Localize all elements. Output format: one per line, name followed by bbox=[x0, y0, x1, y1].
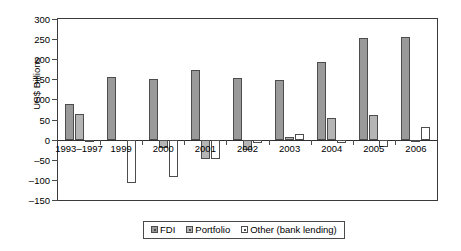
y-tick-mark bbox=[52, 180, 58, 181]
bar-group bbox=[359, 19, 388, 200]
y-tick-mark bbox=[52, 200, 58, 201]
y-tick-mark bbox=[52, 160, 58, 161]
y-tick-mark bbox=[52, 59, 58, 60]
legend-swatch-icon bbox=[151, 226, 158, 233]
bar-fdi bbox=[107, 77, 116, 140]
bar-portfolio bbox=[327, 118, 336, 140]
y-tick-mark bbox=[52, 99, 58, 100]
plot-area: 300250200150100500–50–100–150 bbox=[57, 18, 438, 201]
bar-fdi bbox=[359, 38, 368, 139]
y-tick-label: 50 bbox=[39, 114, 50, 125]
legend-swatch-icon bbox=[241, 226, 248, 233]
x-tick-mark bbox=[184, 140, 185, 145]
bar-fdi bbox=[317, 62, 326, 140]
y-tick-mark bbox=[52, 79, 58, 80]
bar-group bbox=[275, 19, 304, 200]
bar-group bbox=[149, 19, 178, 200]
chart-legend: FDIPortfolioOther (bank lending) bbox=[143, 221, 345, 239]
chart-figure: US$ Billions 300250200150100500–50–100–1… bbox=[0, 0, 461, 251]
bar-fdi bbox=[401, 37, 410, 140]
legend-label: Portfolio bbox=[195, 224, 230, 235]
bar-portfolio bbox=[75, 114, 84, 140]
y-tick-label: 0 bbox=[45, 134, 50, 145]
x-tick-label: 2004 bbox=[321, 143, 342, 154]
x-tick-mark bbox=[269, 140, 270, 145]
legend-label: Other (bank lending) bbox=[250, 224, 337, 235]
bar-fdi bbox=[275, 80, 284, 140]
bar-fdi bbox=[233, 78, 242, 140]
bar-other-bank-lending bbox=[295, 134, 304, 139]
y-tick-mark bbox=[52, 120, 58, 121]
bar-other-bank-lending bbox=[85, 140, 94, 142]
legend-item: FDI bbox=[151, 224, 175, 235]
x-tick-label: 2005 bbox=[363, 143, 384, 154]
bar-fdi bbox=[149, 79, 158, 139]
y-tick-mark bbox=[52, 39, 58, 40]
bar-group bbox=[65, 19, 94, 200]
y-tick-label: –150 bbox=[29, 195, 50, 206]
x-tick-label: 2001 bbox=[195, 143, 216, 154]
x-tick-label: 1993–1997 bbox=[55, 143, 103, 154]
x-tick-label: 2003 bbox=[279, 143, 300, 154]
y-tick-label: 150 bbox=[34, 74, 50, 85]
bar-other-bank-lending bbox=[421, 127, 430, 140]
x-tick-mark bbox=[395, 140, 396, 145]
y-tick-label: 250 bbox=[34, 34, 50, 45]
x-tick-label: 1999 bbox=[111, 143, 132, 154]
bar-portfolio bbox=[369, 115, 378, 140]
y-tick-label: 300 bbox=[34, 14, 50, 25]
bar-fdi bbox=[65, 104, 74, 139]
x-tick-mark bbox=[353, 140, 354, 145]
x-tick-mark bbox=[226, 140, 227, 145]
legend-item: Other (bank lending) bbox=[241, 224, 337, 235]
y-tick-mark bbox=[52, 19, 58, 20]
legend-label: FDI bbox=[160, 224, 175, 235]
bar-portfolio bbox=[285, 137, 294, 140]
x-tick-label: 2006 bbox=[405, 143, 426, 154]
y-tick-label: –100 bbox=[29, 174, 50, 185]
x-tick-mark bbox=[311, 140, 312, 145]
legend-item: Portfolio bbox=[186, 224, 230, 235]
bar-group bbox=[401, 19, 430, 200]
bar-group bbox=[233, 19, 262, 200]
bar-group bbox=[107, 19, 136, 200]
y-tick-label: –50 bbox=[34, 154, 50, 165]
y-tick-label: 100 bbox=[34, 94, 50, 105]
legend-swatch-icon bbox=[186, 226, 193, 233]
bar-fdi bbox=[191, 70, 200, 139]
y-tick-label: 200 bbox=[34, 54, 50, 65]
bar-group bbox=[317, 19, 346, 200]
x-tick-mark bbox=[142, 140, 143, 145]
bar-portfolio bbox=[411, 140, 420, 142]
x-tick-label: 2000 bbox=[153, 143, 174, 154]
bar-group bbox=[191, 19, 220, 200]
x-tick-label: 2002 bbox=[237, 143, 258, 154]
